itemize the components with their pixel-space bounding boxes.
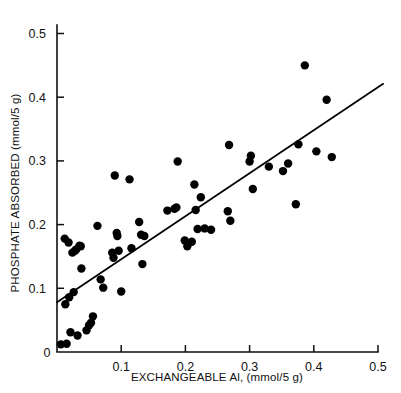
data-point [328,153,336,161]
data-point [109,254,117,262]
data-point [125,175,133,183]
data-point [292,200,300,208]
x-axis-title: EXCHANGEABLE Al, (mmol/5 g) [131,371,303,383]
axes [57,25,378,352]
data-point [173,157,181,165]
data-point [93,222,101,230]
data-point [301,61,309,69]
data-point [226,217,234,225]
data-point [188,238,196,246]
x-tick-label: 0 [44,346,51,360]
data-point [225,141,233,149]
y-tick-label: 0.3 [29,154,46,168]
data-point [138,260,146,268]
data-point [113,232,121,240]
data-point [135,218,143,226]
y-tick-label: 0.4 [29,91,46,105]
data-point [69,288,77,296]
data-point [191,206,199,214]
tick-marks [57,34,378,353]
data-point [111,171,119,179]
y-axis-title: PHOSPHATE ABSORBED (mmol/5 g) [9,93,21,292]
data-point [322,96,330,104]
data-point [114,247,122,255]
data-point [312,147,320,155]
y-tick-label: 0.5 [29,27,46,41]
data-point [64,238,72,246]
data-point [73,331,81,339]
data-point [127,244,135,252]
data-point [62,340,70,348]
data-point [247,152,255,160]
x-tick-label: 0.4 [305,360,322,374]
data-point [279,167,287,175]
data-point [77,264,85,272]
data-point [207,225,215,233]
data-point [172,203,180,211]
data-points [57,61,336,348]
data-point [89,312,97,320]
x-tick-labels: 00.10.20.30.40.5 [44,346,387,374]
y-tick-labels: 0.10.20.30.40.5 [29,27,46,296]
data-point [249,185,257,193]
plot-canvas: 00.10.20.30.40.5 0.10.20.30.40.5 EXCHANG… [0,0,401,393]
data-point [117,287,125,295]
data-point [99,283,107,291]
data-point [197,193,205,201]
data-point [294,140,302,148]
data-point [96,275,104,283]
data-point [284,159,292,167]
data-point [163,206,171,214]
scatter-plot-figure: 00.10.20.30.40.5 0.10.20.30.40.5 EXCHANG… [0,0,401,393]
y-tick-label: 0.1 [29,282,46,296]
data-point [265,162,273,170]
x-tick-label: 0.5 [369,360,386,374]
y-tick-label: 0.2 [29,218,46,232]
x-tick-label: 0.1 [113,360,130,374]
data-point [77,242,85,250]
data-point [140,232,148,240]
data-point [190,180,198,188]
regression-line [57,84,383,302]
data-point [224,207,232,215]
